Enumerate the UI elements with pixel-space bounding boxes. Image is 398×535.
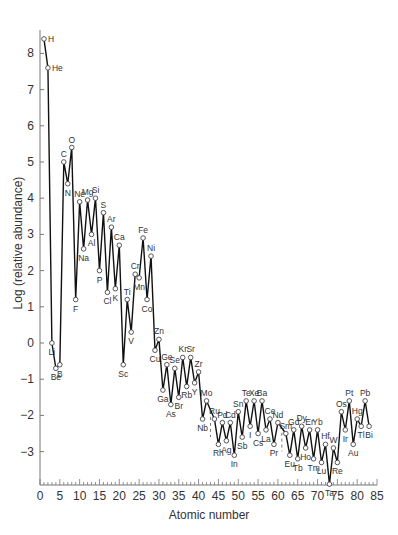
element-label-sc: Sc: [118, 369, 129, 379]
data-point-ag: [224, 438, 229, 443]
data-point-hg: [355, 417, 360, 422]
element-label-k: K: [112, 293, 118, 303]
data-point-ir: [343, 428, 348, 433]
element-label-bi: Bi: [365, 430, 373, 440]
data-point-ne: [77, 200, 82, 205]
element-label-ni: Ni: [147, 243, 155, 253]
data-point-tm: [311, 457, 316, 462]
element-label-c: C: [61, 149, 67, 159]
element-label-pb: Pb: [360, 388, 371, 398]
x-tick-label: 60: [271, 489, 285, 503]
x-axis-label: Atomic number: [0, 508, 398, 522]
element-label-sb: Sb: [237, 441, 248, 451]
y-tick-label: −2: [20, 408, 34, 422]
element-label-au: Au: [348, 448, 359, 458]
element-label-mo: Mo: [201, 388, 213, 398]
data-point-si: [93, 196, 98, 201]
element-label-pt: Pt: [345, 388, 354, 398]
element-label-ti: Ti: [124, 287, 131, 297]
data-point-ta: [327, 482, 332, 487]
x-tick-label: 85: [370, 489, 384, 503]
data-point-zn: [157, 337, 162, 342]
element-label-b: B: [57, 369, 63, 379]
y-tick-label: 4: [27, 191, 34, 205]
data-point-cu: [153, 348, 158, 353]
element-label-os: Os: [336, 399, 347, 409]
data-point-mo: [204, 399, 209, 404]
x-tick-label: 5: [56, 489, 63, 503]
x-tick-label: 25: [132, 489, 146, 503]
data-point-os: [339, 409, 344, 414]
data-point-ru: [212, 417, 217, 422]
element-label-ir: Ir: [343, 434, 348, 444]
element-label-ba: Ba: [257, 388, 268, 398]
data-point-tl: [359, 424, 364, 429]
element-label-ga: Ga: [157, 394, 169, 404]
data-point-ge: [165, 362, 170, 367]
x-tick-label: 20: [113, 489, 127, 503]
y-axis-label: Log (relative abundance): [11, 163, 25, 323]
data-point-w: [331, 446, 336, 451]
data-point-ba: [260, 399, 265, 404]
data-point-ho: [303, 446, 308, 451]
data-point-fe: [141, 236, 146, 241]
element-label-cd: Cd: [225, 410, 236, 420]
element-label-ta: Ta: [325, 488, 334, 498]
element-label-h: H: [48, 34, 54, 44]
x-tick-label: 50: [232, 489, 246, 503]
element-label-cr: Cr: [131, 261, 140, 271]
data-point-te: [244, 399, 249, 404]
data-point-pt: [347, 399, 352, 404]
element-label-w: W: [329, 435, 337, 445]
element-label-pr: Pr: [270, 448, 279, 458]
data-point-ca: [117, 243, 122, 248]
data-point-sm: [284, 431, 289, 436]
data-point-ar: [109, 225, 114, 230]
element-label-y: Y: [192, 387, 198, 397]
data-point-sr: [188, 355, 193, 360]
data-point-la: [264, 428, 269, 433]
data-point-ni: [149, 254, 154, 259]
element-label-si: Si: [92, 185, 100, 195]
y-tick-label: 3: [27, 227, 34, 241]
element-label-p: P: [97, 275, 103, 285]
element-label-v: V: [128, 336, 134, 346]
data-point-na: [81, 247, 86, 252]
data-point-b: [58, 362, 63, 367]
data-point-mg: [85, 198, 90, 203]
data-point-pd: [220, 420, 225, 425]
data-point-lu: [319, 460, 324, 465]
data-point-he: [46, 66, 51, 71]
element-label-li: Li: [49, 347, 56, 357]
element-label-i: I: [249, 430, 251, 440]
data-point-nb: [200, 417, 205, 422]
y-tick-label: −1: [20, 372, 34, 386]
data-point-cl: [105, 290, 110, 295]
data-point-ti: [125, 297, 130, 302]
data-point-n: [65, 181, 70, 186]
data-point-as: [169, 402, 174, 407]
element-label-he: He: [52, 63, 63, 73]
data-point-y: [192, 381, 197, 386]
element-label-re: Re: [332, 466, 343, 476]
data-point-rh: [216, 442, 221, 447]
y-tick-label: 2: [27, 264, 34, 278]
data-point-pr: [272, 442, 277, 447]
data-point-bi: [367, 424, 372, 429]
data-point-li: [50, 341, 55, 346]
element-label-tl: Tl: [358, 430, 365, 440]
data-point-yb: [315, 428, 320, 433]
data-point-h: [42, 37, 47, 42]
data-point-v: [129, 330, 134, 335]
element-label-hg: Hg: [352, 406, 363, 416]
data-point-hf: [323, 442, 328, 447]
y-tick-label: 7: [27, 83, 34, 97]
data-point-al: [89, 232, 94, 237]
data-point-cd: [228, 420, 233, 425]
element-label-rb: Rb: [181, 390, 192, 400]
x-tick-label: 0: [37, 489, 44, 503]
element-label-co: Co: [142, 304, 153, 314]
element-label-lu: Lu: [317, 466, 327, 476]
element-label-yb: Yb: [312, 417, 323, 427]
x-tick-label: 15: [93, 489, 107, 503]
